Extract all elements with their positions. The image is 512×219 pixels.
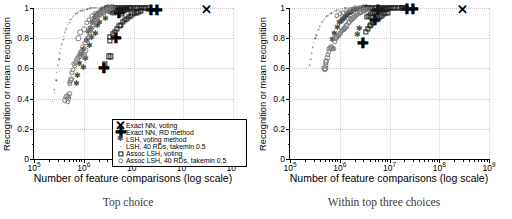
marker-square-icon <box>103 61 108 66</box>
y-tick-minor <box>288 53 291 54</box>
marker-dot-icon <box>327 15 328 16</box>
x-tick-label: 106 <box>77 162 90 172</box>
gridline-vertical <box>340 8 341 159</box>
y-tick-label: 1 <box>24 4 29 13</box>
marker-square-icon <box>119 11 124 16</box>
marker-star-icon: ✱ <box>97 9 104 17</box>
y-tick <box>30 99 34 100</box>
x-tick-minor <box>305 159 306 162</box>
marker-dot-icon <box>336 10 337 11</box>
marker-circle-icon <box>86 17 91 22</box>
marker-circle-icon <box>340 27 345 32</box>
marker-star-icon: ✱ <box>329 36 336 44</box>
marker-star-icon: ✱ <box>76 60 83 68</box>
marker-star-icon: ✱ <box>89 19 96 27</box>
x-tick-minor <box>79 159 80 162</box>
marker-dot-icon <box>62 39 63 40</box>
marker-star-icon: ✱ <box>91 15 98 23</box>
marker-circle-icon <box>328 45 333 50</box>
marker-circle-icon <box>66 91 71 96</box>
marker-circle-icon <box>100 10 105 15</box>
x-tick-minor <box>463 159 464 162</box>
marker-circle-icon <box>348 17 353 22</box>
x-tick-minor <box>413 159 414 162</box>
marker-square-icon <box>134 10 139 15</box>
marker-square-icon <box>375 16 380 21</box>
marker-square-icon <box>364 14 369 19</box>
marker-circle-icon <box>353 13 358 18</box>
marker-dot-icon <box>54 89 55 90</box>
marker-star-icon: ✱ <box>73 80 80 88</box>
marker-square-icon <box>107 39 112 44</box>
marker-dot-icon <box>326 16 327 17</box>
marker-dot-icon <box>322 21 323 22</box>
caption-within-top-three: Within top three choices <box>256 196 512 208</box>
x-tick-minor <box>58 159 59 162</box>
marker-dot-icon <box>328 14 329 15</box>
x-tick-minor <box>76 159 77 162</box>
marker-circle-icon <box>326 49 331 54</box>
y-tick-minor <box>32 53 35 54</box>
y-tick-minor <box>288 114 291 115</box>
y-axis-title-right: Recognition or mean recognition <box>256 8 269 160</box>
marker-dot-icon <box>57 65 58 66</box>
y-tick-minor <box>288 144 291 145</box>
marker-star-icon: ✱ <box>356 25 363 33</box>
gridline-vertical <box>489 8 490 159</box>
marker-circle-icon <box>342 26 347 31</box>
x-tick-minor <box>107 159 108 162</box>
marker-square-icon <box>367 24 372 29</box>
marker-dot-icon <box>311 53 312 54</box>
marker-circle-icon <box>73 60 78 65</box>
marker-star-icon: ✱ <box>85 28 92 36</box>
marker-circle-icon <box>92 11 97 16</box>
marker-dot-icon <box>323 19 324 20</box>
x-tick-minor <box>378 159 379 162</box>
marker-square-icon <box>368 11 373 16</box>
marker-circle-icon <box>327 46 332 51</box>
marker-dot-icon <box>319 25 320 26</box>
x-axis-title-left: Number of feature comparisons (log scale… <box>33 172 233 184</box>
marker-circle-icon <box>75 57 80 62</box>
marker-circle-icon <box>68 78 73 83</box>
marker-circle-icon <box>77 54 82 59</box>
marker-star-icon: ✱ <box>94 22 101 30</box>
marker-dot-icon <box>331 12 332 13</box>
marker-dot-icon <box>59 53 60 54</box>
x-tick-minor <box>385 159 386 162</box>
marker-circle-icon <box>350 16 355 21</box>
marker-circle-icon <box>99 11 104 16</box>
x-tick-minor <box>404 159 405 162</box>
marker-square-icon <box>364 30 369 35</box>
marker-star-icon: ✱ <box>341 15 348 23</box>
marker-circle-icon <box>344 8 349 13</box>
marker-circle-icon <box>102 9 107 14</box>
legend-item: ✱LSH, voting method <box>115 136 244 143</box>
marker-dot-icon <box>333 11 334 12</box>
marker-star-icon: ✱ <box>101 6 108 14</box>
x-tick-minor <box>478 159 479 162</box>
marker-circle-icon <box>87 28 92 33</box>
legend-marker: ✚ <box>115 129 126 136</box>
marker-square-icon <box>371 21 376 26</box>
marker-dot-icon <box>310 59 311 60</box>
marker-circle-icon <box>325 52 330 57</box>
marker-circle-icon <box>71 61 76 66</box>
marker-dot-icon <box>64 31 65 32</box>
marker-circle-icon <box>359 9 364 14</box>
marker-circle-icon <box>72 63 77 68</box>
caption-top-choice: Top choice <box>0 196 256 208</box>
y-tick <box>286 129 290 130</box>
marker-dot-icon <box>316 34 317 35</box>
plot-area-within-top-three: 00.20.40.60.81105106107108109✕✚✚✚✚✚✱✱✱✱✱… <box>289 8 489 160</box>
marker-dot-icon <box>313 42 314 43</box>
marker-square-icon <box>113 30 118 35</box>
x-tick-minor <box>432 159 433 162</box>
x-tick-label: 109 <box>482 162 495 172</box>
y-tick-label: 1 <box>280 4 285 13</box>
marker-dot-icon <box>80 10 81 11</box>
marker-circle-icon <box>78 52 83 57</box>
marker-square-icon <box>372 10 377 15</box>
gridline-vertical <box>439 8 440 159</box>
marker-dot-icon <box>68 22 69 23</box>
